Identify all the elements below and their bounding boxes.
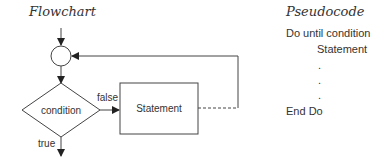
flowchart-diagram: condition false Statement true	[0, 0, 390, 163]
decision-label: condition	[41, 105, 81, 116]
pseudocode-title: Pseudocode	[286, 4, 364, 19]
true-label: true	[38, 138, 56, 149]
pseudocode-line-ellipsis-3: .	[318, 89, 321, 101]
pseudocode-line-end-do: End Do	[286, 105, 323, 117]
pseudocode-line-ellipsis-2: .	[318, 74, 321, 86]
false-label: false	[97, 92, 119, 103]
statement-label: Statement	[136, 103, 182, 114]
pseudocode-line-do-until: Do until condition	[286, 27, 370, 39]
pseudocode-line-ellipsis-1: .	[318, 59, 321, 71]
pseudocode-line-statement: Statement	[317, 43, 367, 55]
junction-circle	[51, 46, 71, 66]
